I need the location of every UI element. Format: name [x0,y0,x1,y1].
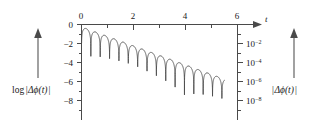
y-tick-label: 0 [69,20,74,30]
y-left-major-ticks [77,25,82,101]
left-axis-label: log|Δϕ(t)| [12,85,51,96]
y-tick-label: −8 [63,96,73,106]
x-axis-arrowhead [253,21,262,28]
up-arrow-icon [290,28,298,78]
y-right-tick-label: 10−2 [246,39,261,50]
figure-canvas: log|Δϕ(t)| |Δϕ(t)| t 0 [0,0,322,121]
y-right-tick-labels: 10−2 10−4 10−6 10−8 [246,39,261,107]
x-axis: t 0 2 4 6 [79,11,268,30]
right-axis-label: |Δϕ(t)| [272,85,297,96]
y-left-tick-labels: 0 −2 −4 −6 −8 [63,20,73,106]
y-right-tick-label: 10−8 [246,96,261,107]
y-right-tick-label: 10−4 [246,58,261,69]
left-annotation: log|Δϕ(t)| [12,28,51,96]
y-right-tick-label: 10−6 [246,77,261,88]
right-label-body: Δϕ(t) [273,85,293,96]
x-tick-labels: 0 2 4 6 [79,11,240,21]
x-axis-title: t [265,14,268,24]
y-tick-label: −2 [63,39,73,49]
y-axis-left: 0 −2 −4 −6 −8 [63,20,81,121]
left-label-log: log [12,85,24,95]
y-tick-label: −6 [63,77,73,87]
x-tick-label: 6 [235,11,240,21]
x-tick-label: 0 [79,11,84,21]
x-tick-label: 4 [183,11,188,21]
right-annotation: |Δϕ(t)| [272,28,298,96]
y-tick-label: −4 [63,58,73,68]
x-tick-label: 2 [131,11,136,21]
data-curve [82,25,225,99]
y-axis-right: 10−2 10−4 10−6 10−8 [238,24,262,120]
left-label-body: Δϕ(t) [27,85,47,96]
up-arrow-icon [34,28,42,78]
